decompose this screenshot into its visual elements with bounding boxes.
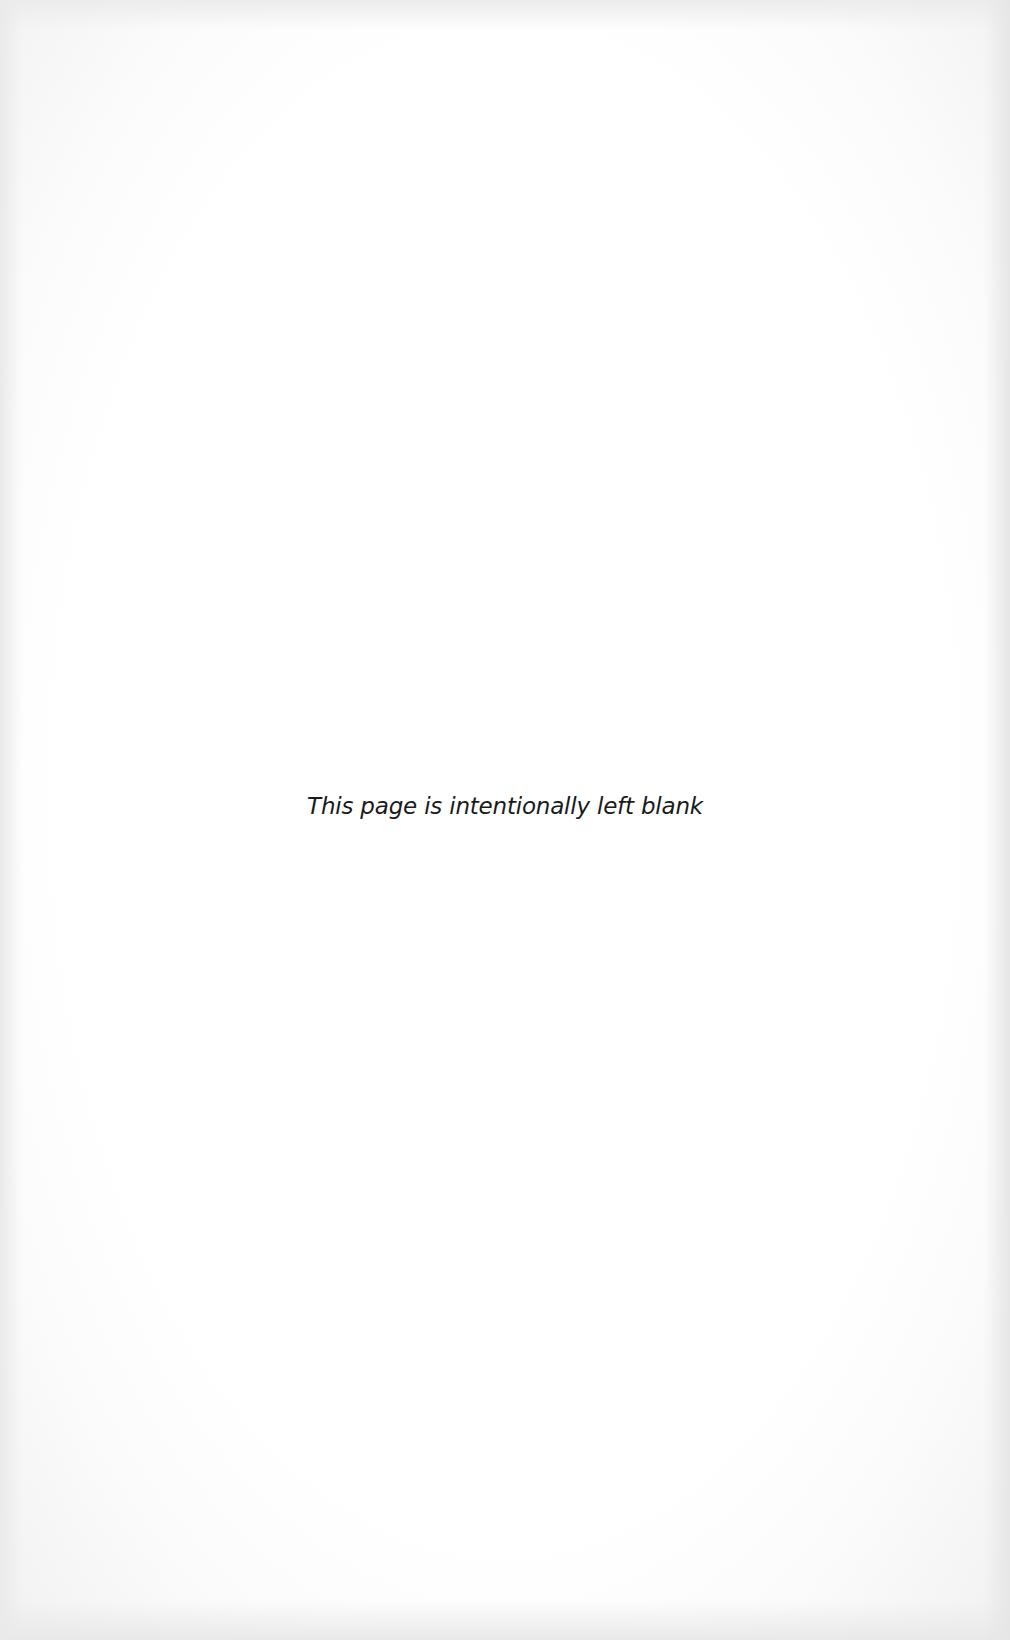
page-top-edge-shading xyxy=(0,0,1010,30)
blank-page-notice: This page is intentionally left blank xyxy=(0,789,1010,823)
page-bottom-edge-shading xyxy=(0,1600,1010,1640)
document-page: This page is intentionally left blank xyxy=(0,0,1010,1640)
